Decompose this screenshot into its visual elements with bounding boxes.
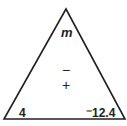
bottom-right-value: ⁻12.4 — [86, 107, 115, 119]
top-variable: m — [61, 27, 73, 39]
plus-sign: + — [62, 79, 70, 91]
bottom-left-value: 4 — [19, 107, 26, 119]
minus-sign: − — [62, 64, 70, 76]
